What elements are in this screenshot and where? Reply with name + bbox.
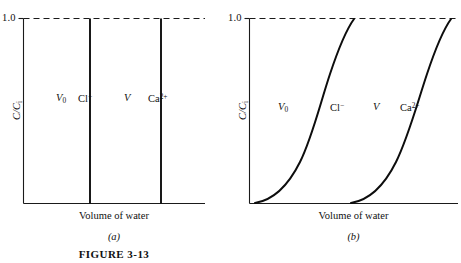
y-axis-title-main-a: C/C — [11, 103, 22, 120]
y-axis-title-a: C/Ci — [12, 101, 23, 120]
zone-label-chloride-a: Cl− — [78, 93, 92, 105]
y-axis-title-b: C/Ci — [238, 101, 249, 120]
zone-label-calcium-sup-a: 2+ — [160, 92, 168, 101]
panel-a-plot — [0, 0, 230, 263]
zone-label-v0-a: V0 — [56, 93, 66, 104]
zone-label-chloride-sup-b: − — [340, 101, 344, 110]
zone-label-v-main-a: V — [124, 92, 130, 103]
zone-label-v0-sub-a: 0 — [62, 96, 66, 105]
figure-3-13: 1.0 C/Ci V0 Cl− V Ca2+ Volume of water (… — [0, 0, 461, 263]
zone-label-calcium-b: Ca2+ — [400, 102, 420, 114]
x-axis-title-a: Volume of water — [23, 211, 205, 222]
x-axis-title-b: Volume of water — [249, 211, 458, 222]
panel-caption-b: (b) — [249, 232, 458, 243]
zone-label-v0-b: V0 — [278, 102, 288, 113]
panel-a: 1.0 C/Ci V0 Cl− V Ca2+ Volume of water (… — [0, 0, 230, 263]
y-tick-label-b: 1.0 — [228, 13, 242, 24]
panel-b-plot — [230, 0, 461, 263]
zone-label-calcium-sup-b: 2+ — [412, 101, 420, 110]
zone-label-chloride-sup-a: − — [88, 92, 92, 101]
y-axis-title-sub-b: i — [241, 101, 250, 103]
zone-label-chloride-b: Cl− — [330, 102, 344, 114]
figure-caption: FIGURE 3-13 — [23, 249, 205, 260]
zone-label-chloride-main-a: Cl — [78, 93, 88, 104]
zone-label-v-a: V — [124, 93, 130, 104]
zone-label-v0-sub-b: 0 — [284, 105, 288, 114]
panel-caption-a: (a) — [23, 232, 205, 243]
panel-b: 1.0 C/Ci V0 Cl− V Ca2+ Volume of water (… — [230, 0, 460, 263]
zone-label-calcium-main-b: Ca — [400, 102, 412, 113]
zone-label-v-main-b: V — [373, 101, 379, 112]
zone-label-v-b: V — [373, 102, 379, 113]
zone-label-calcium-main-a: Ca — [148, 93, 160, 104]
y-axis-title-main-b: C/C — [237, 103, 248, 120]
y-tick-label-a: 1.0 — [2, 13, 16, 24]
y-axis-title-sub-a: i — [15, 101, 24, 103]
zone-label-calcium-a: Ca2+ — [148, 93, 168, 105]
zone-label-chloride-main-b: Cl — [330, 102, 340, 113]
